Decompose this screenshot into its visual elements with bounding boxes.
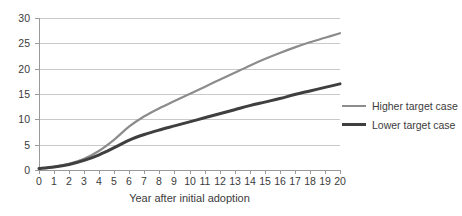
y-axis-line bbox=[39, 18, 40, 171]
y-axis-tick-label: 30 bbox=[4, 13, 30, 23]
chart-legend: Higher target case Lower target case bbox=[342, 96, 460, 134]
x-axis-tick bbox=[174, 170, 175, 174]
x-axis-tick bbox=[205, 170, 206, 174]
x-axis-tick bbox=[325, 170, 326, 174]
gridline-horizontal bbox=[39, 69, 340, 70]
x-axis-tick bbox=[295, 170, 296, 174]
legend-swatch-lower-target-case bbox=[342, 123, 366, 126]
y-axis-tick-label: 25 bbox=[4, 38, 30, 48]
x-axis-tick bbox=[280, 170, 281, 174]
legend-swatch-higher-target-case bbox=[342, 105, 366, 107]
x-axis-tick bbox=[250, 170, 251, 174]
x-axis-title: Year after initial adoption bbox=[39, 192, 340, 204]
x-axis-tick bbox=[265, 170, 266, 174]
y-axis-tick-label: 10 bbox=[4, 114, 30, 124]
y-axis-tick-label: 15 bbox=[4, 89, 30, 99]
series-line-higher-target-case bbox=[39, 33, 340, 168]
x-axis-tick bbox=[190, 170, 191, 174]
x-axis-tick bbox=[84, 170, 85, 174]
x-axis-tick-label: 20 bbox=[331, 176, 349, 187]
x-axis-tick bbox=[340, 170, 341, 174]
legend-item: Higher target case bbox=[342, 96, 460, 115]
x-axis-tick bbox=[235, 170, 236, 174]
legend-label-higher-target-case: Higher target case bbox=[372, 100, 458, 112]
gridline-horizontal bbox=[39, 94, 340, 95]
x-axis-tick bbox=[54, 170, 55, 174]
line-chart: 051015202530 012345678910111213141516171… bbox=[0, 0, 462, 216]
legend-label-lower-target-case: Lower target case bbox=[372, 119, 455, 131]
series-line-lower-target-case bbox=[39, 84, 340, 169]
gridline-horizontal bbox=[39, 119, 340, 120]
x-axis-tick bbox=[220, 170, 221, 174]
legend-item: Lower target case bbox=[342, 115, 460, 134]
x-axis-tick bbox=[144, 170, 145, 174]
x-axis-tick bbox=[129, 170, 130, 174]
y-axis-tick-label: 0 bbox=[4, 165, 30, 175]
gridline-horizontal bbox=[39, 145, 340, 146]
gridline-horizontal bbox=[39, 18, 340, 19]
x-axis-tick bbox=[69, 170, 70, 174]
x-axis-tick bbox=[99, 170, 100, 174]
x-axis-tick bbox=[39, 170, 40, 174]
x-axis-tick bbox=[114, 170, 115, 174]
x-axis-tick bbox=[310, 170, 311, 174]
y-axis-tick-label: 5 bbox=[4, 140, 30, 150]
y-axis-tick-label: 20 bbox=[4, 64, 30, 74]
x-axis-tick bbox=[159, 170, 160, 174]
gridline-horizontal bbox=[39, 43, 340, 44]
